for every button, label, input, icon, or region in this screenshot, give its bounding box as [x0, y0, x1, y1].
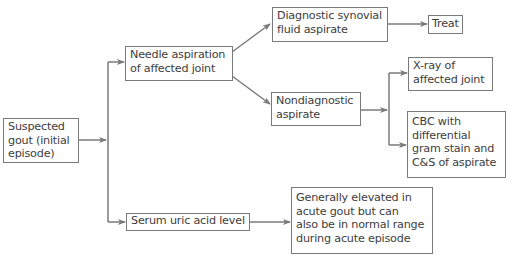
- node-nondiagnostic-aspirate: Nondiagnostic aspirate: [271, 92, 361, 126]
- arrow-to-diagnostic: [232, 24, 270, 52]
- node-diagnostic-aspirate: Diagnostic synovial fluid aspirate: [272, 7, 388, 42]
- arrow-to-nondiagnostic: [232, 76, 270, 104]
- node-generally-elevated: Generally elevated in acute gout but can…: [291, 187, 433, 254]
- node-suspected-gout: Suspected gout (initial episode): [3, 118, 79, 163]
- node-xray: X-ray of affected joint: [408, 57, 493, 91]
- node-treat: Treat: [428, 15, 463, 34]
- node-needle-aspiration: Needle aspiration of affected joint: [125, 46, 233, 81]
- node-serum-uric-acid: Serum uric acid level: [126, 213, 250, 231]
- node-cbc: CBC with differential gram stain and C&S…: [407, 111, 506, 178]
